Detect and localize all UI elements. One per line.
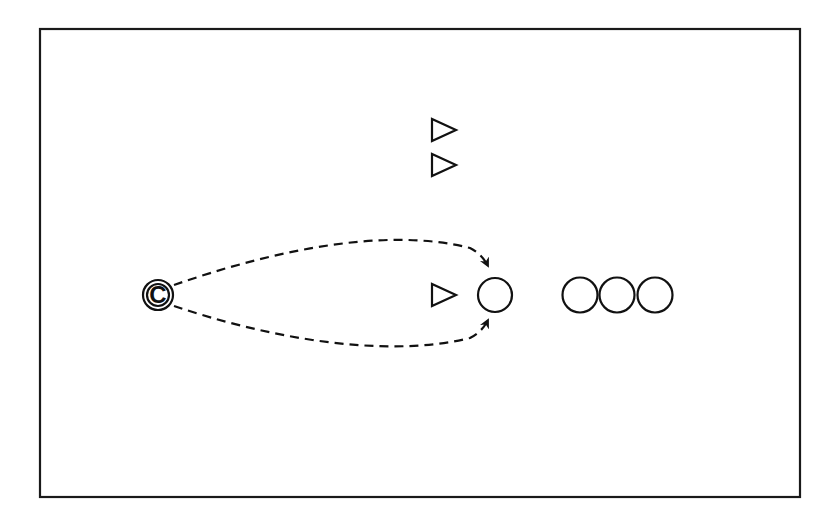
player-queue-icon xyxy=(600,278,635,313)
coach-icon: C xyxy=(143,280,173,310)
coach-label: C xyxy=(149,281,166,308)
player-receiver-icon xyxy=(478,278,512,312)
cone-icon xyxy=(432,119,456,141)
cone-icon xyxy=(432,284,456,306)
player-queue-icon xyxy=(638,278,673,313)
drill-diagram: C xyxy=(0,0,838,520)
field-boundary xyxy=(40,29,800,497)
pass-path-lower xyxy=(174,306,488,346)
cone-icon xyxy=(432,154,456,176)
pass-path-upper xyxy=(174,240,488,285)
player-queue-icon xyxy=(563,278,598,313)
